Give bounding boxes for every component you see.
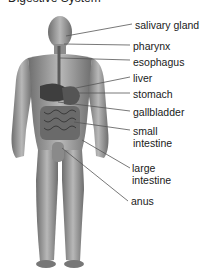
label-liver: liver <box>133 72 152 84</box>
intestines <box>40 106 80 140</box>
label-small-intestine-2: intestine <box>133 137 172 149</box>
label-large-intestine-2: intestine <box>132 174 171 186</box>
left-arm <box>12 58 33 158</box>
label-gallbladder: gallbladder <box>133 106 184 118</box>
head <box>48 16 72 48</box>
label-pharynx: pharynx <box>133 40 170 52</box>
label-salivary-gland: salivary gland <box>135 19 199 31</box>
liver-organ <box>40 83 66 101</box>
label-large-intestine-1: large <box>132 162 155 174</box>
right-leg <box>62 150 84 262</box>
label-small-intestine-1: small <box>133 125 158 137</box>
label-anus: anus <box>131 195 154 207</box>
label-esophagus: esophagus <box>133 56 184 68</box>
label-stomach: stomach <box>133 88 173 100</box>
left-leg <box>36 150 58 262</box>
